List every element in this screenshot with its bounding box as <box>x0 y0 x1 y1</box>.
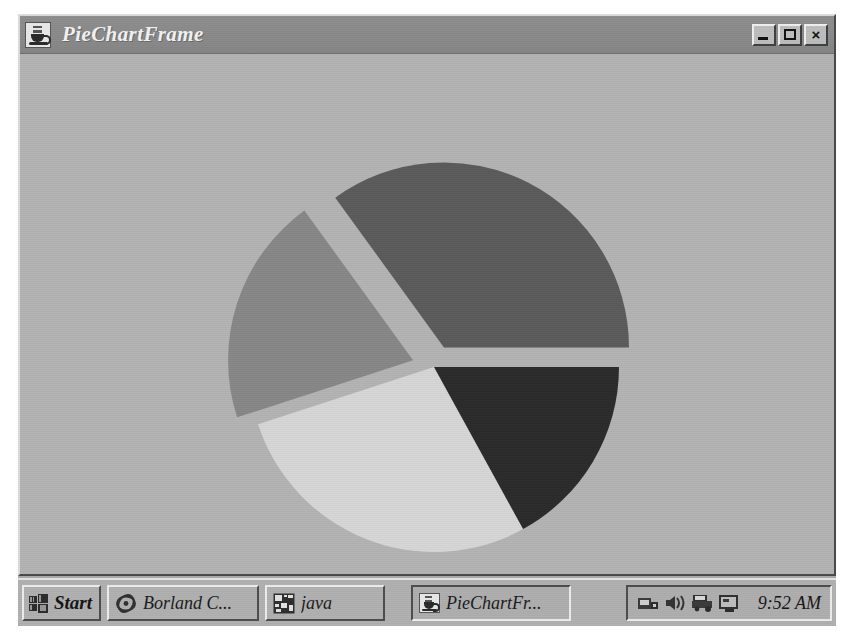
pie-chart <box>20 54 834 573</box>
printer-icon[interactable] <box>691 593 713 613</box>
window-title: PieChartFrame <box>62 22 204 47</box>
task-label: PieChartFr... <box>446 593 542 614</box>
window-controls: × <box>752 24 828 46</box>
maximize-icon <box>784 29 796 40</box>
clock: 9:52 AM <box>758 593 821 614</box>
modem-icon[interactable] <box>637 593 659 613</box>
minimize-button[interactable] <box>752 24 776 46</box>
task-button-java[interactable]: java <box>265 585 385 621</box>
minimize-icon <box>758 37 768 40</box>
task-label: Borland C... <box>143 593 232 614</box>
task-label: java <box>301 593 332 614</box>
display-icon[interactable] <box>718 593 740 613</box>
borland-icon <box>115 593 137 614</box>
java-coffee-cup-icon <box>419 593 440 613</box>
close-icon: × <box>806 26 826 44</box>
taskbar: Start Borland C... <box>18 578 836 626</box>
maximize-button[interactable] <box>778 24 802 46</box>
desktop[interactable]: PieChartFrame × <box>18 14 836 626</box>
start-button[interactable]: Start <box>22 585 101 621</box>
volume-speaker-icon[interactable] <box>664 593 686 613</box>
start-label: Start <box>54 592 92 614</box>
window-titlebar[interactable]: PieChartFrame × <box>20 16 834 54</box>
task-button-piechartframe[interactable]: PieChartFr... <box>411 585 571 621</box>
system-tray: 9:52 AM <box>626 585 832 621</box>
close-button[interactable]: × <box>804 24 828 46</box>
java-coffee-cup-icon[interactable] <box>25 22 51 48</box>
pie-slices <box>228 162 629 552</box>
windows-logo-icon <box>29 594 49 613</box>
window-client-area <box>20 54 834 573</box>
console-icon <box>273 593 295 614</box>
screen: PieChartFrame × <box>0 0 857 638</box>
application-window: PieChartFrame × <box>18 14 836 576</box>
task-button-borland[interactable]: Borland C... <box>107 585 259 621</box>
